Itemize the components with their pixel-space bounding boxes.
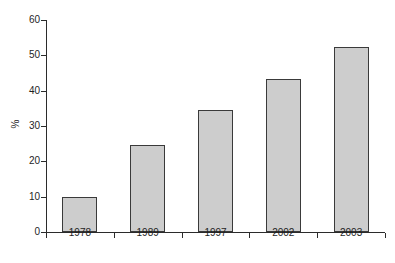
bar-2002 (266, 79, 301, 232)
y-axis-tick-label: 40 (14, 86, 40, 96)
y-axis-line (46, 20, 47, 233)
y-axis-tick (41, 91, 46, 92)
y-axis-tick-label-text: 40 (18, 86, 40, 96)
bar-2003 (334, 47, 369, 232)
x-axis-tick (317, 233, 318, 238)
y-axis-tick (41, 161, 46, 162)
y-axis-tick (41, 55, 46, 56)
y-axis-tick-label: 50 (14, 50, 40, 60)
y-axis-tick (41, 197, 46, 198)
plot-area: 0102030405060 (46, 20, 385, 233)
y-axis-tick-label-text: 10 (18, 192, 40, 202)
y-axis-tick-label: 10 (14, 192, 40, 202)
y-axis-tick-label: 20 (14, 156, 40, 166)
x-axis-tick (249, 233, 250, 238)
y-axis-tick-label: 60 (14, 15, 40, 25)
x-axis-tick (46, 233, 47, 238)
x-axis-tick-label: 1997 (186, 227, 246, 238)
x-axis-tick (385, 233, 386, 238)
y-axis-tick-label: 0 (14, 227, 40, 237)
y-axis-tick-label-text: 60 (18, 15, 40, 25)
y-axis-tick-label-text: 30 (18, 121, 40, 131)
y-axis-tick (41, 126, 46, 127)
y-axis-tick (41, 20, 46, 21)
y-axis-tick-label: 30 (14, 121, 40, 131)
x-axis-tick (114, 233, 115, 238)
x-axis-tick-label: 2002 (253, 227, 313, 238)
bar-1989 (130, 145, 165, 232)
y-axis-tick-label-text: 0 (18, 227, 40, 237)
bar-1997 (198, 110, 233, 232)
x-axis-tick-label: 1989 (118, 227, 178, 238)
x-axis-tick-label: 1978 (50, 227, 110, 238)
x-axis-tick-label: 2003 (321, 227, 381, 238)
x-axis-tick (182, 233, 183, 238)
y-axis-tick-label-text: 50 (18, 50, 40, 60)
bar-chart-figure: % 0102030405060 19781989199720022003 (0, 0, 395, 263)
y-axis-tick-label-text: 20 (18, 156, 40, 166)
